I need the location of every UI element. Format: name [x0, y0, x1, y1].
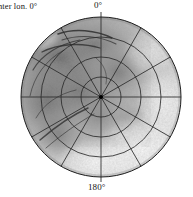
longitude-label-0: 0°	[94, 0, 102, 10]
polar-plot	[0, 0, 193, 197]
longitude-label-180: 180°	[88, 182, 106, 192]
center-longitude-label: nter lon. 0°	[0, 1, 37, 11]
polar-map-figure: nter lon. 0° 0° 180°	[0, 0, 193, 197]
pole-marker	[99, 95, 103, 99]
